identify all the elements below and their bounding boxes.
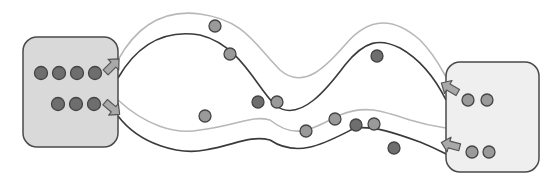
left-particle — [88, 98, 101, 111]
right-particle — [466, 146, 478, 158]
free-particle — [300, 125, 312, 137]
diagram-canvas — [0, 0, 560, 179]
right-particle — [483, 146, 495, 158]
left-particle — [70, 98, 83, 111]
left-particle — [53, 67, 66, 80]
free-particle — [371, 50, 383, 62]
left-particle — [52, 98, 65, 111]
upper-channel-light-line — [118, 13, 446, 78]
free-particle — [209, 20, 221, 32]
free-particle — [271, 96, 283, 108]
left-particle — [71, 67, 84, 80]
free-particle — [329, 113, 341, 125]
free-particle — [388, 142, 400, 154]
free-particle — [199, 110, 211, 122]
left-particle — [89, 67, 102, 80]
free-particle — [252, 96, 264, 108]
free-particle — [368, 118, 380, 130]
free-particle — [350, 119, 362, 131]
left-particle — [35, 67, 48, 80]
left-compartment — [23, 37, 118, 147]
right-particle — [481, 94, 493, 106]
free-particle — [224, 48, 236, 60]
transport-diagram — [0, 0, 560, 179]
channels-layer — [118, 13, 446, 154]
right-particle — [462, 94, 474, 106]
